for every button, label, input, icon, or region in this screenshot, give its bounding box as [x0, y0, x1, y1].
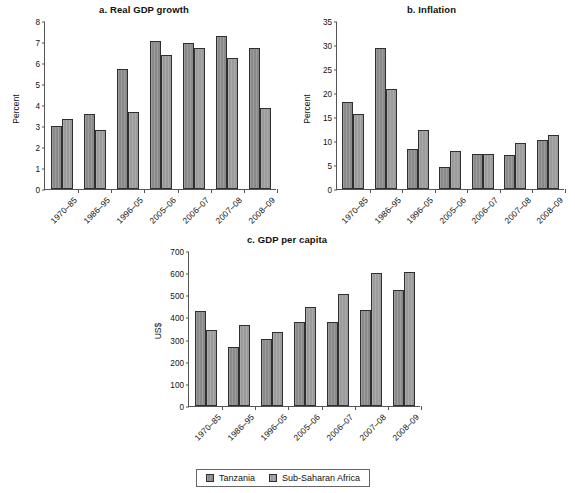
- x-axis-tick-label: 1996–05: [114, 195, 145, 226]
- legend-label-tanzania: Tanzania: [219, 473, 255, 483]
- y-tick-mark: [334, 46, 338, 47]
- y-tick-mark: [42, 43, 46, 44]
- x-axis-tick-label: 2007–08: [358, 412, 389, 443]
- bar: [504, 155, 515, 189]
- bar: [375, 48, 386, 189]
- chart-legend: Tanzania Sub-Saharan Africa: [196, 469, 370, 487]
- y-tick-mark: [42, 127, 46, 128]
- y-tick-mark: [42, 22, 46, 23]
- x-axis-tick-label: 2008–09: [535, 195, 566, 226]
- x-axis-tick-label: 2005–06: [291, 412, 322, 443]
- bar-group: [472, 22, 494, 189]
- x-tick-mark: [565, 189, 566, 193]
- bar-group: [195, 252, 217, 406]
- bar: [360, 310, 371, 406]
- y-tick-mark: [186, 340, 190, 341]
- bar: [228, 347, 239, 406]
- bar-group: [504, 22, 526, 189]
- legend-swatch-icon-sub-saharan-africa: [269, 474, 277, 482]
- y-tick-mark: [42, 169, 46, 170]
- bar: [62, 119, 73, 189]
- legend-swatch-icon-tanzania: [206, 474, 214, 482]
- bar-groups-c: [189, 252, 420, 406]
- plot-area-a: 1970–851986–951996–052005–062006–072007–…: [44, 22, 276, 190]
- y-tick-mark: [42, 64, 46, 65]
- bar-group: [327, 252, 349, 406]
- x-axis-tick-label: 2007–08: [502, 195, 533, 226]
- y-tick-mark: [334, 94, 338, 95]
- bar-group: [375, 22, 397, 189]
- y-tick-mark: [334, 166, 338, 167]
- x-axis-tick-label: 1986–95: [372, 195, 403, 226]
- y-tick-mark: [334, 70, 338, 71]
- y-tick-mark: [186, 407, 190, 408]
- x-axis-tick-label: 1970–85: [339, 195, 370, 226]
- bar: [227, 58, 238, 189]
- bar: [206, 330, 217, 406]
- bar: [128, 112, 139, 189]
- bar: [95, 130, 106, 189]
- x-axis-tick-label: 1970–85: [192, 412, 223, 443]
- bar-group: [342, 22, 364, 189]
- plot-area-b: 1970–851986–951996–052005–062006–072007–…: [336, 22, 564, 190]
- bar: [483, 154, 494, 189]
- x-axis-tick-label: 1996–05: [405, 195, 436, 226]
- bar: [548, 135, 559, 189]
- y-tick-mark: [42, 106, 46, 107]
- bar-group: [439, 22, 461, 189]
- bar-group: [84, 22, 106, 189]
- x-tick-mark: [421, 406, 422, 410]
- chart-title-c: c. GDP per capita: [142, 234, 432, 245]
- x-axis-tick-label: 2005–06: [437, 195, 468, 226]
- figure-root: a. Real GDP growth Percent 1970–851986–9…: [0, 0, 575, 493]
- y-axis-label-c: US$: [153, 301, 163, 361]
- bar: [472, 154, 483, 189]
- y-tick-mark: [42, 148, 46, 149]
- y-tick-mark: [42, 85, 46, 86]
- x-axis-tick-label: 1996–05: [258, 412, 289, 443]
- bar-group: [150, 22, 172, 189]
- bar-group: [537, 22, 559, 189]
- bar: [386, 89, 397, 189]
- y-tick-mark: [186, 318, 190, 319]
- bar: [327, 322, 338, 406]
- legend-item-tanzania: Tanzania: [206, 473, 255, 483]
- bar: [439, 167, 450, 189]
- x-axis-tick-label: 2008–09: [247, 195, 278, 226]
- bar: [261, 339, 272, 406]
- bar: [418, 130, 429, 189]
- x-axis-tick-label: 2005–06: [147, 195, 178, 226]
- bar-group: [393, 252, 415, 406]
- y-tick-mark: [186, 296, 190, 297]
- legend-label-sub-saharan-africa: Sub-Saharan Africa: [282, 473, 360, 483]
- bar: [294, 322, 305, 406]
- bar: [537, 140, 548, 189]
- x-axis-tick-label: 2006–07: [181, 195, 212, 226]
- plot-area-c: 1970–851986–951996–052005–062006–072007–…: [188, 252, 420, 407]
- x-tick-mark: [277, 189, 278, 193]
- legend-item-sub-saharan-africa: Sub-Saharan Africa: [269, 473, 360, 483]
- bar-group: [294, 252, 316, 406]
- y-tick-mark: [186, 252, 190, 253]
- y-tick-mark: [334, 142, 338, 143]
- bar: [150, 41, 161, 189]
- bar-group: [216, 22, 238, 189]
- chart-title-b: b. Inflation: [288, 4, 575, 15]
- y-tick-mark: [186, 274, 190, 275]
- y-tick-mark: [334, 22, 338, 23]
- bar-group: [183, 22, 205, 189]
- bar: [342, 102, 353, 189]
- bar: [194, 48, 205, 189]
- bar-group: [249, 22, 271, 189]
- bar: [117, 69, 128, 189]
- bar-group: [261, 252, 283, 406]
- y-axis-label-b: Percent: [302, 79, 312, 139]
- bar-group: [407, 22, 429, 189]
- y-tick-mark: [42, 190, 46, 191]
- bar: [239, 325, 250, 406]
- bar: [216, 36, 227, 189]
- x-axis-tick-label: 2006–07: [325, 412, 356, 443]
- bar: [84, 114, 95, 189]
- bar: [407, 149, 418, 189]
- bar: [51, 126, 62, 189]
